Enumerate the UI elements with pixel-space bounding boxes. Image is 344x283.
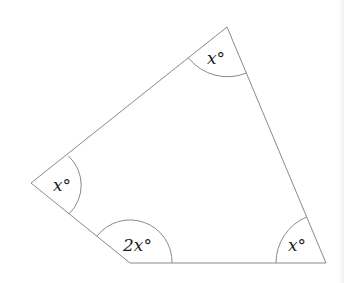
quadrilateral-diagram: x° x° 2x° x° xyxy=(0,0,344,283)
angle-label-left: x° xyxy=(53,175,71,195)
angle-label-bottom-right: x° xyxy=(288,235,306,255)
angle-label-bottom-left: 2x° xyxy=(122,235,152,255)
page-edge-shade xyxy=(338,0,344,283)
angle-label-top: x° xyxy=(207,48,225,68)
diagram-canvas: x° x° 2x° x° xyxy=(0,0,344,283)
quadrilateral-outline xyxy=(31,27,326,263)
